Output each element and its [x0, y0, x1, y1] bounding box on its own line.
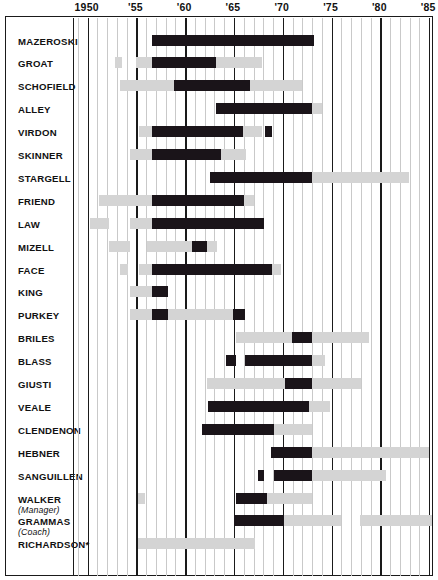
row-label-alley: ALLEY: [18, 104, 51, 115]
timeline-bar-groat-light-0: [115, 57, 122, 68]
timeline-bar-blass-dark-1: [226, 355, 236, 366]
timeline-bar-virdon-dark-1: [152, 126, 243, 137]
timeline-bar-briles-dark-1: [292, 332, 312, 343]
timeline-bar-virdon-dark-2: [265, 126, 272, 137]
timeline-bar-walker-light-0: [138, 493, 145, 504]
axis-tick-label-75: '75: [323, 1, 338, 13]
row-label-law: LAW: [18, 219, 40, 230]
timeline-bar-walker-dark-2: [236, 493, 267, 504]
row-label-mizell: MIZELL: [18, 242, 54, 253]
row-label-name: FRIEND: [18, 196, 55, 207]
row-label-purkey: PURKEY: [18, 310, 59, 321]
timeline-bar-richardson-light-0: [138, 538, 255, 549]
timeline-bar-sanguillen-dark-1: [258, 470, 264, 481]
timeline-bar-hebner-dark-1: [271, 447, 312, 458]
axis-tick-label-85: '85: [421, 1, 436, 13]
row-label-blass: BLASS: [18, 356, 52, 367]
timeline-bar-veale-dark-1: [208, 401, 309, 412]
timeline-bar-mizell-light-1: [147, 241, 217, 252]
row-label-role: (Manager): [18, 505, 61, 516]
timeline-bar-law-light-0: [90, 218, 110, 229]
timeline-bar-face-dark-3: [152, 264, 272, 275]
row-label-virdon: VIRDON: [18, 127, 57, 138]
row-label-name: FACE: [18, 265, 45, 276]
row-label-name: VEALE: [18, 402, 51, 413]
row-label-name: HEBNER: [18, 448, 60, 459]
timeline-bar-purkey-light-0: [130, 309, 236, 320]
row-label-giusti: GIUSTI: [18, 379, 51, 390]
axis-tick-label-1950: 1950: [75, 1, 99, 13]
timeline-bar-stargell-dark-1: [210, 172, 312, 183]
row-label-skinner: SKINNER: [18, 150, 63, 161]
timeline-bar-purkey-dark-1: [152, 309, 168, 320]
timeline-bar-sanguillen-dark-2: [274, 470, 312, 481]
timeline-chart: 1950'55'60'65'70'75'80'85 MAZEROSKIGROAT…: [0, 0, 438, 580]
row-label-name: STARGELL: [18, 173, 71, 184]
row-label-name: SKINNER: [18, 150, 63, 161]
row-label-king: KING: [18, 287, 43, 298]
row-label-name: BLASS: [18, 356, 52, 367]
timeline-bar-king-dark-1: [152, 286, 168, 297]
timeline-bar-mizell-dark-2: [192, 241, 207, 252]
row-label-name: GRAMMAS: [18, 516, 70, 527]
row-label-name: WALKER: [18, 494, 61, 505]
row-label-stargell: STARGELL: [18, 173, 71, 184]
timeline-plot-area: [73, 18, 432, 576]
timeline-bar-grammas-light-1: [360, 515, 432, 526]
timeline-bar-alley-dark-1: [216, 103, 312, 114]
row-label-name: LAW: [18, 219, 40, 230]
row-label-walker: WALKER(Manager): [18, 494, 61, 516]
row-label-veale: VEALE: [18, 402, 51, 413]
row-label-groat: GROAT: [18, 58, 53, 69]
axis-tick-label-70: '70: [274, 1, 289, 13]
timeline-bar-grammas-light-0: [284, 515, 342, 526]
row-label-name: SCHOFIELD: [18, 81, 76, 92]
row-label-name: PURKEY: [18, 310, 59, 321]
timeline-bar-mazeroski-dark-0: [152, 35, 314, 46]
row-label-face: FACE: [18, 265, 45, 276]
row-label-role: (Coach): [18, 527, 70, 538]
row-label-name: VIRDON: [18, 127, 57, 138]
timeline-bar-clendenon-dark-1: [202, 424, 274, 435]
timeline-bar-king-light-0: [130, 286, 154, 297]
axis-tick-label-65: '65: [226, 1, 241, 13]
timeline-bar-friend-dark-1: [152, 195, 244, 206]
row-label-mazeroski: MAZEROSKI: [18, 36, 78, 47]
row-label-friend: FRIEND: [18, 196, 55, 207]
row-label-name: GROAT: [18, 58, 53, 69]
timeline-bar-face-light-0: [120, 264, 128, 275]
row-label-hebner: HEBNER: [18, 448, 60, 459]
row-label-name: BRILES: [18, 333, 55, 344]
timeline-bar-skinner-dark-1: [152, 149, 221, 160]
timeline-bar-schofield-dark-1: [174, 80, 249, 91]
axis-tick-label-80: '80: [372, 1, 387, 13]
row-label-name: ALLEY: [18, 104, 51, 115]
axis-tick-label-55: '55: [128, 1, 143, 13]
time-axis-header: 1950'55'60'65'70'75'80'85: [0, 0, 438, 18]
timeline-bar-purkey-dark-2: [233, 309, 245, 320]
row-label-grammas: GRAMMAS(Coach): [18, 516, 70, 538]
row-label-name: KING: [18, 287, 43, 298]
timeline-bar-groat-dark-2: [152, 57, 216, 68]
row-label-name: CLENDENON: [18, 425, 81, 436]
timeline-bar-face-light-2: [272, 264, 281, 275]
timeline-bar-grammas-dark-2: [234, 515, 284, 526]
row-label-column: MAZEROSKIGROATSCHOFIELDALLEYVIRDONSKINNE…: [5, 18, 73, 576]
timeline-bar-blass-dark-2: [245, 355, 312, 366]
timeline-bar-law-light-1: [130, 218, 154, 229]
row-label-clendenon: CLENDENON: [18, 425, 81, 436]
row-label-name: MIZELL: [18, 242, 54, 253]
row-label-name: MAZEROSKI: [18, 36, 78, 47]
timeline-bar-mizell-light-0: [109, 241, 129, 252]
timeline-bar-law-dark-2: [152, 218, 264, 229]
row-label-name: GIUSTI: [18, 379, 51, 390]
axis-tick-label-60: '60: [177, 1, 192, 13]
row-label-briles: BRILES: [18, 333, 55, 344]
timeline-bar-giusti-dark-1: [285, 378, 312, 389]
timeline-bar-layer: [74, 18, 432, 576]
row-label-schofield: SCHOFIELD: [18, 81, 76, 92]
